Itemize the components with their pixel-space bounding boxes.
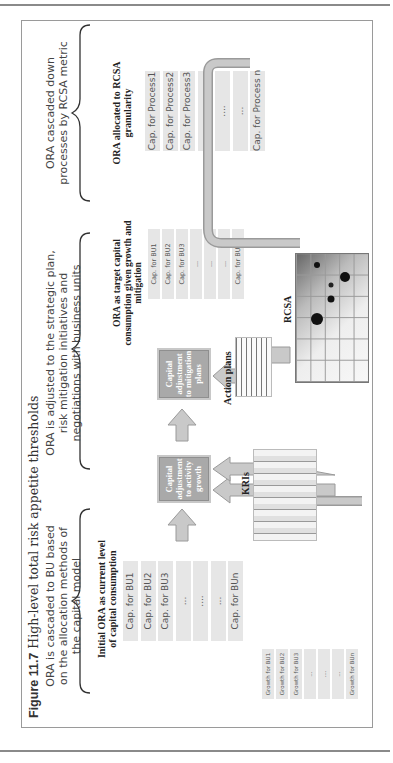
rcsa-risk-dots <box>295 255 367 383</box>
growth-cell: .... <box>318 649 330 699</box>
growth-cell: ... <box>332 649 344 699</box>
kris-thumbnail <box>253 449 317 541</box>
action-plans-thumbnail <box>235 337 272 397</box>
rcsa-label: RCSA <box>282 296 293 323</box>
growth-cell: Growth for BU3 <box>290 649 302 699</box>
growth-cell: Growth for BU1 <box>262 649 274 699</box>
growth-list: Growth for BU1 Growth for BU2 Growth for… <box>262 649 360 699</box>
growth-cell: Growth for BU2 <box>276 649 288 699</box>
kris-label: KRIs <box>240 472 251 495</box>
growth-cell: ... <box>304 649 316 699</box>
arrow-right-icon <box>168 509 196 541</box>
growth-cell: Growth for BUn <box>346 649 358 699</box>
arrow-right-icon <box>168 409 196 441</box>
figure-landscape: Figure 11.7 High-level total risk appeti… <box>0 0 393 763</box>
action-plans-label: Action plans <box>222 351 233 405</box>
